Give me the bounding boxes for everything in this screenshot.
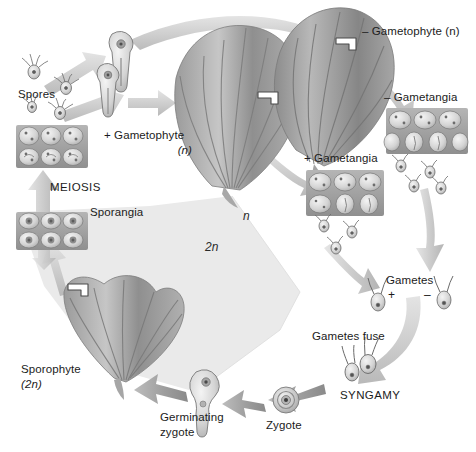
label-sporangia: Sporangia	[90, 206, 143, 219]
sporangia-cell-block	[16, 212, 88, 250]
ploidy-marker-haploid: n	[243, 210, 250, 222]
zygote-cell	[273, 387, 299, 413]
arrow-zygote-to-germinating	[222, 390, 266, 418]
label-sporophyte-line2: (2n)	[21, 378, 42, 391]
label-plus-gametophyte: + Gametophyte	[104, 129, 184, 142]
arrow-germinating-to-plus-gametophyte	[128, 90, 176, 116]
label-sporophyte-line1: Sporophyte	[21, 363, 81, 376]
label-minus-gametophyte: – Gametophyte (n)	[362, 25, 460, 38]
gamete-minus	[434, 276, 453, 309]
label-syngamy: SYNGAMY	[340, 389, 400, 402]
label-germinating-zygote-line1: Germinating	[160, 411, 224, 424]
life-cycle-diagram: Spores MEIOSIS Sporangia + Gametophyte (…	[0, 0, 476, 452]
diagram-artwork	[0, 0, 476, 452]
ploidy-marker-diploid: 2n	[205, 241, 218, 253]
label-plus-gametangia: + Gametangia	[304, 152, 378, 165]
label-gametes: Gametes	[386, 274, 433, 287]
minus-gametangia-block	[384, 108, 468, 154]
label-plus-gametophyte-ploidy: (n)	[104, 144, 192, 157]
label-gamete-minus-sign: –	[424, 289, 431, 301]
label-germinating-zygote-line2: zygote	[160, 426, 194, 439]
arrow-minus-gametes-down	[416, 188, 444, 272]
label-zygote: Zygote	[266, 419, 302, 432]
label-spores: Spores	[18, 88, 55, 101]
label-meiosis: MEIOSIS	[50, 181, 101, 194]
spore-cell-block	[16, 125, 88, 168]
label-gamete-plus-sign: +	[388, 289, 395, 301]
label-gametes-fuse: Gametes fuse	[312, 330, 385, 343]
plus-gametangia-block	[306, 170, 384, 216]
label-minus-gametangia: – Gametangia	[384, 91, 457, 104]
